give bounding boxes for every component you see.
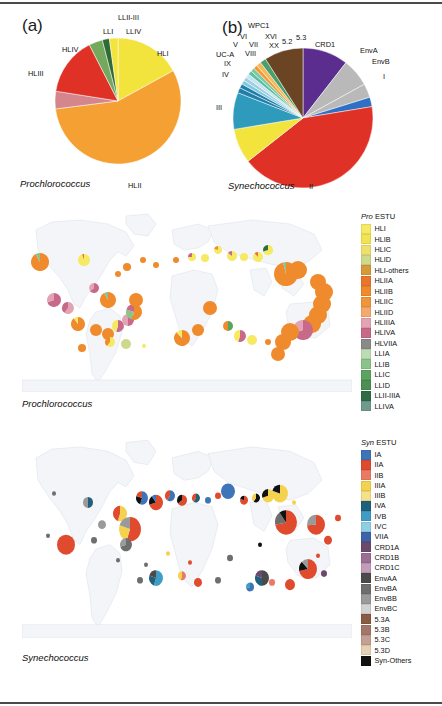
panel-c-station-pie [121,339,131,349]
panel-d-legend-swatch [361,656,371,666]
slice-label-b-VIII: VIII [245,50,256,57]
panel-d-legend-swatch [361,501,371,511]
panel-c-station-pie [78,254,90,266]
panel-d-station-pie [137,577,143,584]
panel-d-legend-label: IVB [375,513,387,520]
panel-c-legend-label: HLIIB [375,288,393,295]
panel-d-station-pie [119,517,141,541]
panel-d-station-pie [177,495,187,506]
panel-d-legend-item: EnvBC [361,604,411,614]
panel-c-legend-item: HLI-others [361,265,409,275]
panel-c-legend-swatch [361,276,371,286]
panel-d-station-pie [91,537,97,544]
panel-d-legend-label: EnvBC [375,605,398,612]
panel-c-station-pie [129,293,143,307]
panel-d-legend: Syn ESTU IAIIAIIBIIIAIIIBIVAIVBIVCVIIACR… [361,438,411,666]
panel-c-legend-swatch [361,265,371,275]
bottom-rule [0,702,442,704]
panel-c-legend-label: HLIIA [375,277,393,284]
panel-c-legend: Pro ESTU HLIHLIBHLICHLIDHLI-othersHLIIAH… [361,212,409,411]
panel-c-legend-swatch [361,380,371,390]
slice-label-a-LLIV: LLIV [126,28,141,35]
panel-c-station-pie [47,293,61,307]
panel-d-station-pie [178,571,186,580]
panel-d-legend-label: 5.3A [375,616,390,623]
panel-d-station-pie [116,558,120,562]
slice-label-a-HLIV: HLIV [62,46,78,53]
panel-d-legend-item: 5.3D [361,645,411,655]
slice-label-b-III: III [216,104,222,111]
panel-c-legend-swatch [361,318,371,328]
panel-b-taxon-name: Synechococcus [228,180,295,191]
panel-c-station-pie [153,262,159,268]
panel-c-legend-swatch [361,401,371,411]
panel-d-legend-item: IVB [361,511,411,521]
panel-d-station-pie [269,579,275,586]
panel-d-station-pie [299,559,317,579]
panel-d-legend-item: IIB [361,470,411,480]
panel-d-legend-swatch [361,450,371,460]
panel-c-legend-item: LLIVA [361,401,409,411]
panel-c-legend-item: HLIIB [361,286,409,296]
panel-d-legend-swatch [361,614,371,624]
panel-c-legend-item: HLIIA [361,276,409,286]
panel-a-letter: (a) [22,16,43,36]
slice-label-b-EnvA: EnvA [360,47,378,54]
panel-d-legend-swatch [361,604,371,614]
panel-c-station-pie [173,257,179,263]
panel-c-station-pie [263,245,273,255]
panel-d-legend-swatch [361,563,371,573]
panel-c-legend-item: HLIB [361,234,409,244]
panel-c-legend-swatch [361,234,371,244]
panel-d-legend-swatch [361,645,371,655]
panel-d-legend-label: VIIA [375,533,389,540]
panel-c-legend-swatch [361,245,371,255]
panel-c-legend-label: LLIVA [375,403,394,410]
panel-c-station-pie [89,283,99,293]
panel-c-legend-item: HLIC [361,244,409,254]
panel-c-legend-swatch [361,224,371,234]
panel-d-legend-label: IVC [375,523,387,530]
panel-d-station-pie [205,497,211,504]
panel-c-legend-item: LLII-IIIA [361,391,409,401]
top-rule [0,2,442,4]
panel-d-station-pie [246,582,254,591]
panel-d-station-pie [285,579,295,590]
panel-d-legend-item: IIIA [361,480,411,490]
panel-d-legend-item: CRD1A [361,542,411,552]
panel-c-legend-item: HLIIC [361,297,409,307]
panel-c-legend-item: LLIC [361,370,409,380]
panel-d-legend-swatch [361,522,371,532]
panel-c-legend-item: HLID [361,255,409,265]
slice-label-b-XVI: XVI [265,33,277,40]
panel-d-legend-swatch [361,542,371,552]
panel-c-station-pie [277,341,283,347]
panel-d-legend-item: IVA [361,501,411,511]
panel-b-pie-chart [233,48,373,188]
panel-c-legend-swatch [361,328,371,338]
panel-c-station-pie [100,292,116,308]
slice-label-b-IX: IX [224,60,231,67]
panel-d-legend-label: IIB [375,472,384,479]
panel-d-legend-label: EnvAA [375,575,397,582]
panel-c-station-pie [223,321,233,331]
panel-d-legend-item: IIA [361,460,411,470]
panel-d-station-pie [194,578,202,587]
panel-c-station-pie [234,330,246,342]
panel-c-station-pie [174,330,190,346]
panel-d-legend-item: EnvBA [361,583,411,593]
panel-c-legend-swatch [361,297,371,307]
panel-a-taxon-name: Prochlorococcus [20,178,90,189]
panel-c-legend-swatch [361,370,371,380]
panel-c-station-pie [31,253,49,271]
panel-c-legend-label: HLID [375,256,392,263]
panel-d-legend-swatch [361,470,371,480]
slice-label-a-LLI: LLI [103,28,113,35]
panel-c-station-pie [271,347,285,361]
slice-label-b-VI: VI [240,33,247,40]
panel-d-map [22,438,352,638]
panel-d-station-pie [221,484,235,500]
panel-d-station-pie [136,491,148,504]
panel-c-legend-label: HLIVA [375,329,396,336]
panel-d-legend-label: 5.3D [375,647,390,654]
